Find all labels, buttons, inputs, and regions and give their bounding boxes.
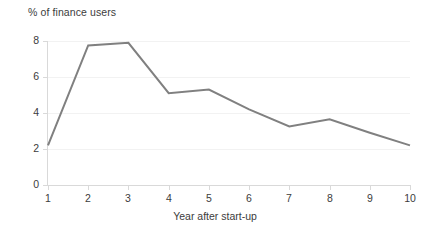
series-line-finance-users [48,43,410,146]
series-line-layer [0,0,430,242]
line-chart: % of finance users 02468 12345678910 Yea… [0,0,430,242]
x-axis-title: Year after start-up [0,210,430,222]
